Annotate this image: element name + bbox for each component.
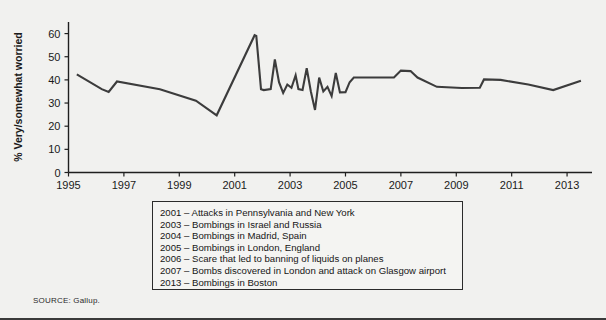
x-tick-label: 2007	[389, 179, 413, 191]
y-axis-title: % Very/somewhat worried	[12, 32, 24, 162]
y-tick-label: 50	[48, 51, 60, 63]
y-axis-ticks: 0102030405060	[48, 28, 68, 179]
y-tick-label: 10	[48, 143, 60, 155]
annotation-item: 2007 – Bombs discovered in London and at…	[160, 265, 462, 277]
x-tick-label: 1997	[112, 179, 136, 191]
x-tick-label: 2013	[555, 179, 579, 191]
x-axis-ticks: 1995199719992001200320052007200920112013	[56, 173, 579, 191]
data-series-line	[77, 35, 581, 115]
events-annotation-box: 2001 – Attacks in Pennsylvania and New Y…	[152, 201, 463, 290]
annotation-item: 2001 – Attacks in Pennsylvania and New Y…	[160, 207, 462, 219]
chart-figure: 0102030405060 19951997199920012003200520…	[0, 0, 606, 320]
x-tick-label: 2011	[500, 179, 524, 191]
y-tick-label: 0	[54, 167, 60, 179]
x-tick-label: 1995	[56, 179, 80, 191]
x-tick-label: 2005	[333, 179, 357, 191]
annotation-item: 2004 – Bombings in Madrid, Spain	[160, 230, 462, 242]
annotation-item: 2005 – Bombings in London, England	[160, 242, 462, 254]
x-tick-label: 2003	[278, 179, 302, 191]
y-tick-label: 60	[48, 28, 60, 40]
x-tick-label: 1999	[167, 179, 191, 191]
y-tick-label: 20	[48, 120, 60, 132]
y-tick-label: 30	[48, 97, 60, 109]
y-tick-label: 40	[48, 74, 60, 86]
x-tick-label: 2001	[222, 179, 246, 191]
annotation-item: 2013 – Bombings in Boston	[160, 277, 462, 289]
x-tick-label: 2009	[444, 179, 468, 191]
source-note: SOURCE: Gallup.	[33, 296, 100, 305]
annotation-item: 2006 – Scare that led to banning of liqu…	[160, 253, 462, 265]
annotation-item: 2003 – Bombings in Israel and Russia	[160, 219, 462, 231]
